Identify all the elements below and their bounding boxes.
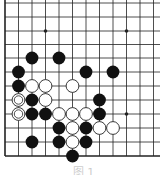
diagram-caption: 图 1 [0, 163, 167, 175]
black-stone [66, 150, 79, 163]
white-stone [26, 80, 39, 93]
black-stone [26, 108, 39, 121]
white-stone [93, 122, 106, 135]
white-stone [53, 108, 66, 121]
white-stone-marked [12, 94, 25, 107]
black-stone [53, 122, 66, 135]
white-stone [66, 136, 79, 149]
star-point-icon [125, 29, 129, 33]
white-stone [39, 94, 52, 107]
black-stone [53, 52, 66, 65]
white-stone [66, 80, 79, 93]
white-stone [80, 108, 93, 121]
black-stone [39, 108, 52, 121]
black-stone [80, 136, 93, 149]
black-stone [26, 94, 39, 107]
go-board-diagram [0, 0, 167, 175]
black-stone [53, 136, 66, 149]
black-stone [93, 108, 106, 121]
white-stone [66, 108, 79, 121]
star-point-icon [125, 112, 129, 116]
white-stone [107, 122, 120, 135]
black-stone [80, 122, 93, 135]
black-stone [107, 66, 120, 79]
black-stone [93, 94, 106, 107]
black-stone [26, 136, 39, 149]
black-stone [12, 80, 25, 93]
stones-layer [12, 52, 119, 163]
black-stone [80, 66, 93, 79]
star-point-icon [44, 29, 48, 33]
white-stone [39, 80, 52, 93]
white-stone [66, 122, 79, 135]
black-stone [26, 52, 39, 65]
black-stone [12, 66, 25, 79]
white-stone-marked [12, 108, 25, 121]
